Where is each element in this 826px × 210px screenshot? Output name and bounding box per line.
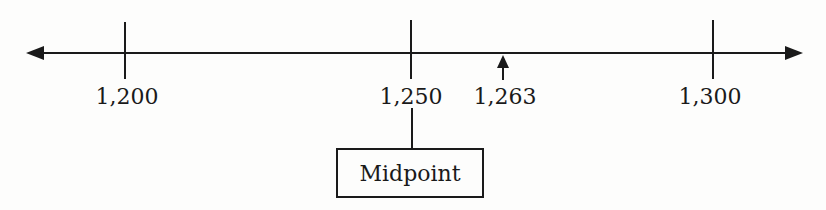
up-arrow-icon (497, 55, 509, 68)
tick-label-1300: 1,300 (679, 86, 742, 108)
marker-label-1263: 1,263 (474, 86, 537, 108)
tick-label-1250: 1,250 (380, 86, 443, 108)
right-arrowhead-icon (785, 46, 803, 60)
number-line-diagram: 1,200 1,250 1,263 1,300 Midpoint (0, 0, 826, 210)
tick-label-1200: 1,200 (96, 86, 159, 108)
left-arrowhead-icon (26, 46, 44, 60)
midpoint-label: Midpoint (359, 161, 460, 186)
midpoint-callout-box: Midpoint (336, 148, 484, 198)
